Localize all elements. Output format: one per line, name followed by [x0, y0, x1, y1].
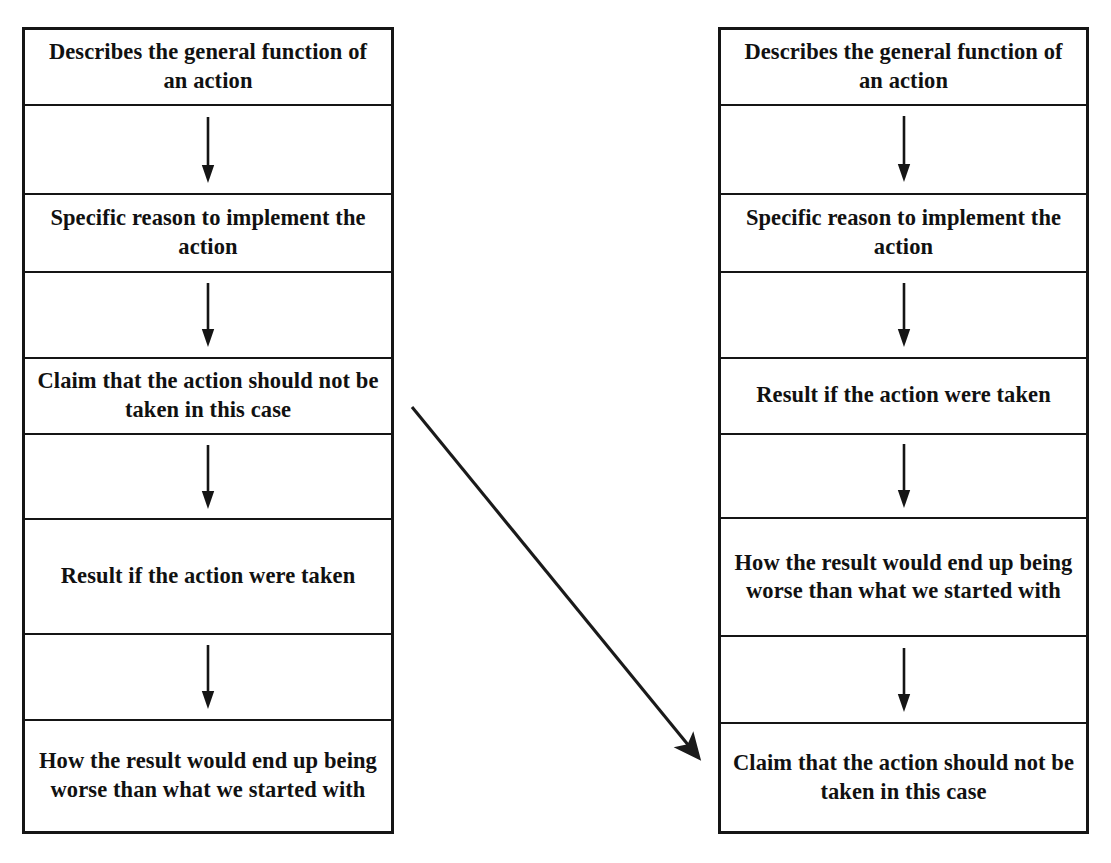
down-arrow-icon — [197, 445, 219, 509]
right-flowchart: Describes the general function of an act… — [718, 27, 1089, 834]
left-step-4-label: Result if the action were taken — [61, 562, 356, 591]
right-step-5: Claim that the action should not be take… — [721, 724, 1086, 831]
left-arrow-4 — [25, 635, 391, 721]
right-step-1: Describes the general function of an act… — [721, 30, 1086, 106]
down-arrow-icon — [197, 117, 219, 183]
left-step-1-label: Describes the general function of an act… — [35, 38, 381, 95]
right-step-5-label: Claim that the action should not be take… — [731, 749, 1076, 806]
right-step-2: Specific reason to implement the action — [721, 195, 1086, 273]
right-arrow-3 — [721, 435, 1086, 520]
left-step-4: Result if the action were taken — [25, 520, 391, 635]
right-step-4: How the result would end up being worse … — [721, 519, 1086, 637]
left-step-5-label: How the result would end up being worse … — [35, 747, 381, 804]
down-arrow-icon — [893, 116, 915, 182]
down-arrow-icon — [197, 283, 219, 347]
right-step-2-label: Specific reason to implement the action — [731, 204, 1076, 261]
left-arrow-2 — [25, 273, 391, 359]
right-step-3-label: Result if the action were taken — [756, 381, 1051, 410]
down-arrow-icon — [893, 444, 915, 508]
left-flowchart: Describes the general function of an act… — [22, 27, 394, 834]
left-step-1: Describes the general function of an act… — [25, 30, 391, 106]
right-step-3: Result if the action were taken — [721, 359, 1086, 435]
left-step-5: How the result would end up being worse … — [25, 721, 391, 831]
left-step-2: Specific reason to implement the action — [25, 195, 391, 273]
left-arrow-1 — [25, 106, 391, 195]
right-arrow-1 — [721, 106, 1086, 195]
right-arrow-2 — [721, 273, 1086, 359]
down-arrow-icon — [893, 648, 915, 712]
right-step-4-label: How the result would end up being worse … — [731, 549, 1076, 606]
diagonal-arrow-line — [412, 407, 698, 757]
right-step-1-label: Describes the general function of an act… — [731, 38, 1076, 95]
left-step-3-label: Claim that the action should not be take… — [35, 367, 381, 424]
right-arrow-4 — [721, 637, 1086, 724]
left-step-3: Claim that the action should not be take… — [25, 359, 391, 435]
left-step-2-label: Specific reason to implement the action — [35, 204, 381, 261]
figure-canvas: Describes the general function of an act… — [0, 0, 1111, 863]
left-arrow-3 — [25, 435, 391, 520]
down-arrow-icon — [893, 283, 915, 347]
clipped-top-text — [150, 0, 570, 3]
down-arrow-icon — [197, 645, 219, 709]
